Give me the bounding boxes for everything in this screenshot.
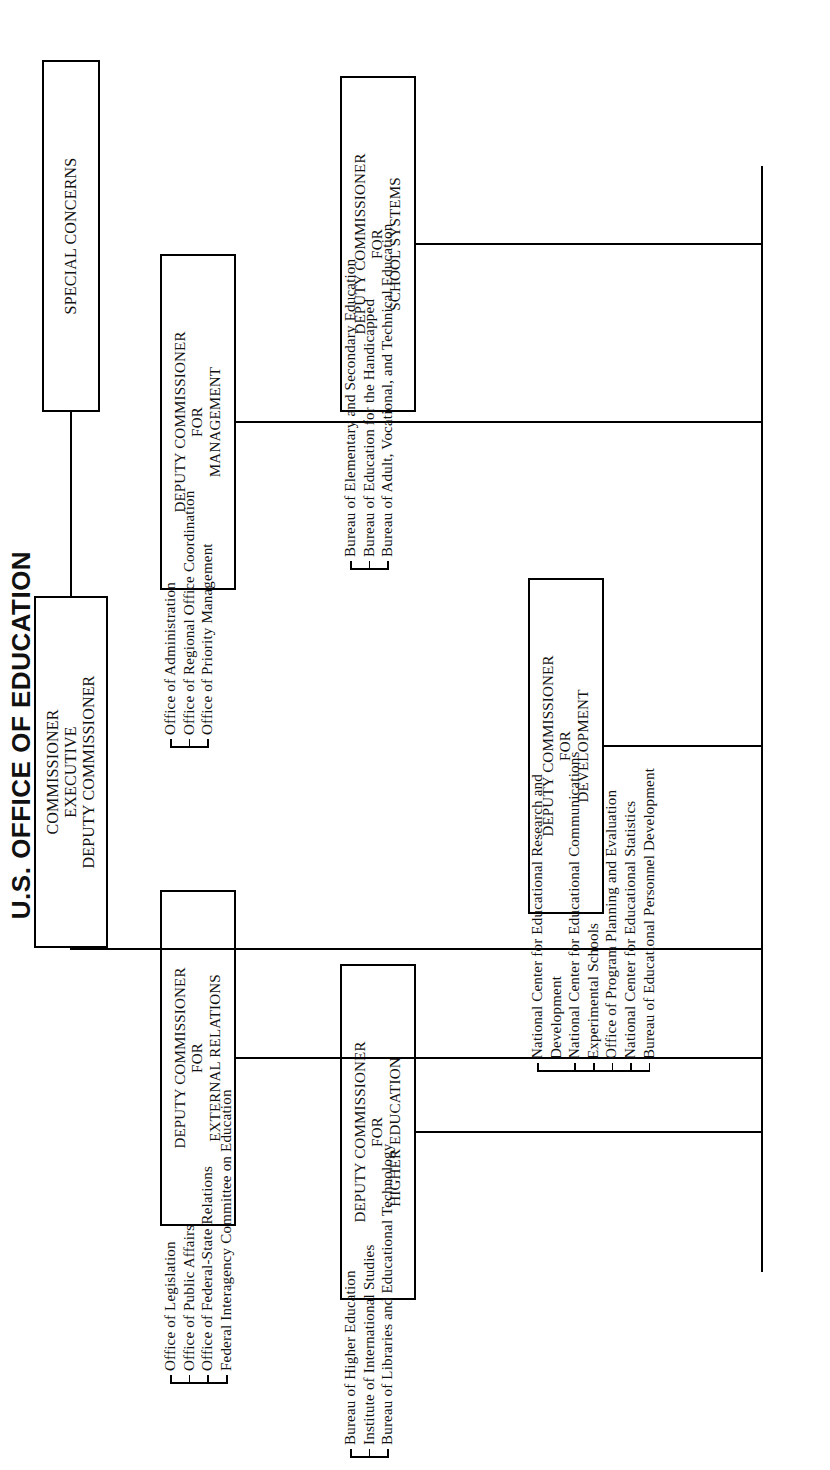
list-item[interactable]: Bureau of Higher Education	[341, 1143, 360, 1458]
list-item[interactable]: National Center for Educational Communic…	[565, 752, 584, 1072]
sublist-higher-education: Bureau of Higher Education Institute of …	[341, 1143, 397, 1458]
sublist-school-systems: Bureau of Elementary and Secondary Educa…	[341, 224, 397, 570]
list-item[interactable]: Bureau of Education for the Handicapped	[360, 224, 379, 570]
connector-spine-to-management	[236, 421, 763, 423]
list-item[interactable]: Office of Public Affairs	[180, 1089, 199, 1384]
org-chart: U.S. OFFICE OF EDUCATION COMMISSIONER EX…	[0, 0, 830, 1470]
node-commissioner-line-2: EXECUTIVE	[62, 726, 80, 818]
page-title: U.S. OFFICE OF EDUCATION	[6, 0, 37, 1470]
connector-spine-to-school-systems	[416, 243, 763, 245]
list-item[interactable]: Bureau of Adult, Vocational, and Technic…	[378, 224, 397, 570]
sublist-development: National Center for Educational Research…	[528, 752, 658, 1072]
sublist-management: Office of Administration Office of Regio…	[161, 491, 217, 748]
list-item[interactable]: Experimental Schools	[584, 752, 603, 1072]
node-management-line-1: DEPUTY COMMISSIONER	[172, 331, 189, 512]
connector-commissioner-drop	[70, 948, 763, 950]
list-item[interactable]: Federal Interagency Committee on Educati…	[217, 1089, 236, 1384]
connector-spine-to-external-relations	[236, 1057, 763, 1059]
list-item[interactable]: Office of Legislation	[161, 1089, 180, 1384]
list-item[interactable]: Bureau of Libraries and Educational Tech…	[378, 1143, 397, 1458]
node-commissioner-line-3: DEPUTY COMMISSIONER	[80, 676, 98, 869]
connector-spine-to-development	[604, 745, 763, 747]
node-special-concerns[interactable]: SPECIAL CONCERNS	[42, 60, 100, 412]
connector-commissioner-to-special-concerns	[70, 412, 72, 596]
connector-main-spine	[761, 166, 763, 1272]
node-management-line-2: FOR	[189, 407, 206, 437]
list-item[interactable]: Office of Regional Office Coordination	[180, 491, 199, 748]
node-external-relations-line-2: FOR	[189, 1043, 206, 1073]
list-item[interactable]: Bureau of Educational Personnel Developm…	[640, 752, 659, 1072]
list-item[interactable]: Office of Priority Management	[198, 491, 217, 748]
list-item-continuation: Development	[547, 752, 566, 1072]
node-special-concerns-label: SPECIAL CONCERNS	[62, 158, 80, 315]
rotated-chart-canvas: U.S. OFFICE OF EDUCATION COMMISSIONER EX…	[0, 0, 830, 1470]
connector-spine-to-higher-education	[416, 1131, 763, 1133]
list-item[interactable]: Office of Program Planning and Evaluatio…	[602, 752, 621, 1072]
node-commissioner-line-1: COMMISSIONER	[44, 709, 62, 834]
sublist-external-relations: Office of Legislation Office of Public A…	[161, 1089, 235, 1384]
list-item[interactable]: Office of Administration	[161, 491, 180, 748]
list-item[interactable]: National Center for Educational Statisti…	[621, 752, 640, 1072]
node-commissioner[interactable]: COMMISSIONER EXECUTIVE DEPUTY COMMISSION…	[34, 596, 108, 948]
node-management-line-3: MANAGEMENT	[207, 367, 224, 477]
list-item[interactable]: Institute of International Studies	[360, 1143, 379, 1458]
list-item[interactable]: National Center for Educational Research…	[528, 752, 547, 1072]
list-item[interactable]: Office of Federal-State Relations	[198, 1089, 217, 1384]
list-item[interactable]: Bureau of Elementary and Secondary Educa…	[341, 224, 360, 570]
